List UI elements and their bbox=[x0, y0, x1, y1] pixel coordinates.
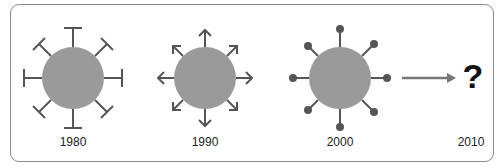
stage-label-1990: 1990 bbox=[175, 135, 235, 149]
stage-label-2010: 2010 bbox=[441, 135, 501, 149]
stage-label-2000: 2000 bbox=[310, 135, 370, 149]
stage-2000-virus-icon bbox=[290, 26, 390, 130]
stage-1980-virus-icon bbox=[24, 28, 122, 128]
unknown-future-symbol: ? bbox=[458, 58, 488, 94]
arrow-right-icon bbox=[402, 73, 456, 83]
stage-1990-virus-icon bbox=[158, 30, 252, 126]
stage-label-1980: 1980 bbox=[43, 135, 103, 149]
